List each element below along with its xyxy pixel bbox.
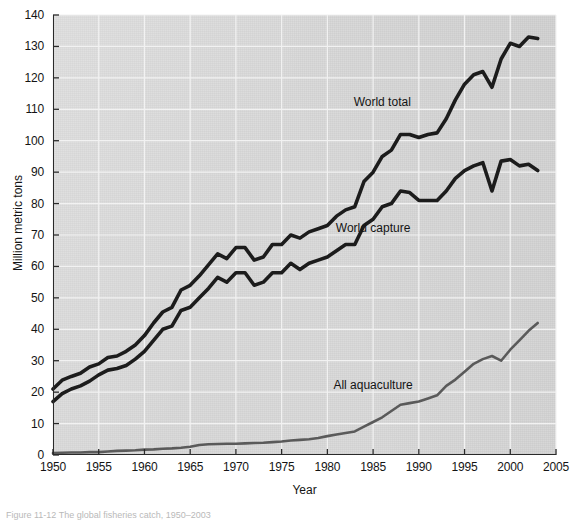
x-tick-label: 2005 [543, 461, 569, 473]
y-tick-label: 30 [31, 355, 44, 367]
y-tick-label: 90 [31, 166, 44, 178]
x-tick-label: 1955 [86, 461, 112, 473]
y-tick-label: 80 [31, 198, 44, 210]
series-label-world-total: World total [354, 96, 411, 109]
x-axis-title: Year [53, 483, 556, 497]
y-tick-label: 40 [31, 323, 44, 335]
x-tick-label: 2000 [497, 461, 523, 473]
x-tick-label: 1985 [360, 461, 386, 473]
x-tick-label: 1990 [406, 461, 432, 473]
y-tick-label: 50 [31, 292, 44, 304]
y-tick-label: 10 [31, 418, 44, 430]
x-axis-tick-labels: 1950195519601965197019751980198519901995… [53, 461, 556, 477]
x-tick-label: 1965 [177, 461, 203, 473]
y-tick-label: 140 [25, 9, 44, 21]
y-tick-label: 130 [25, 40, 44, 52]
y-tick-label: 110 [25, 103, 44, 115]
y-tick-label: 120 [25, 72, 44, 84]
y-tick-label: 100 [25, 135, 44, 147]
x-tick-label: 1980 [314, 461, 340, 473]
figure-container: 0102030405060708090100110120130140 Milli… [0, 0, 587, 525]
y-axis-title: Million metric tons [11, 153, 25, 293]
y-tick-label: 20 [31, 386, 44, 398]
plot-area: World total World capture All aquacultur… [53, 15, 556, 455]
series-label-all-aquaculture: All aquaculture [333, 379, 412, 392]
chart-canvas [53, 15, 556, 455]
y-tick-label: 60 [31, 260, 44, 272]
series-label-world-capture: World capture [336, 222, 410, 235]
x-tick-label: 1970 [223, 461, 249, 473]
y-tick-label: 70 [31, 229, 44, 241]
figure-caption: Figure 11-12 The global fisheries catch,… [6, 510, 584, 521]
x-tick-label: 1960 [132, 461, 158, 473]
x-tick-label: 1975 [269, 461, 295, 473]
x-tick-label: 1950 [40, 461, 66, 473]
x-tick-label: 1995 [452, 461, 478, 473]
